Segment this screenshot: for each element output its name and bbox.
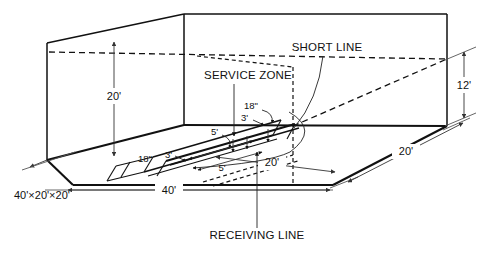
floor-grid-line-4 (107, 172, 144, 181)
dim-text-front-wall-height: 20' (107, 90, 121, 102)
dim-text-line-width-left: 18" (138, 153, 152, 164)
dim-text-court-length: 40' (162, 184, 176, 196)
court-diagram-figure: 20' 12' 40' 20' (0, 0, 489, 255)
floor-court-lines (107, 120, 299, 186)
callout-text-short-line: SHORT LINE (292, 41, 363, 53)
dim-text-receiving-zone-depth: 5' (218, 162, 225, 173)
hidden-edge-short-line-top (197, 56, 293, 67)
edge-floor-back (184, 125, 447, 126)
ext-line-left-corner (22, 152, 75, 170)
dimension-back-wall-height: 12' (445, 47, 476, 126)
leader-18in-top (262, 110, 272, 123)
callout-text-receiving-line: RECEIVING LINE (210, 229, 305, 241)
edge-floor-right-diagonal (333, 126, 447, 185)
dim-text-line-width-short: 18" (244, 100, 258, 111)
dimension-front-wall-height: 20' (100, 42, 128, 156)
hidden-edge-back-top (49, 52, 447, 59)
dim-text-service-box-width: 3' (241, 112, 248, 123)
hidden-edge-diagonal (293, 59, 447, 126)
dim-text-service-zone-depth: 5' (211, 126, 218, 137)
spec-text-overall-dimensions: 40'×20'×20' (14, 189, 70, 201)
ext-line-12ft-top (445, 47, 476, 60)
leader-short-line (294, 56, 323, 128)
callout-short-line: SHORT LINE (292, 41, 363, 128)
court-diagram-svg: 20' 12' 40' 20' (0, 0, 489, 255)
edge-top-left-slant (47, 14, 184, 43)
dimension-left-corner-leader (22, 152, 75, 170)
dimension-side-depth: 20' (330, 118, 470, 188)
dim-text-back-wall-height: 12' (457, 79, 471, 91)
dim-text-court-width-side: 20' (399, 145, 413, 157)
dim-text-service-box-width-left: 3' (165, 149, 172, 160)
edge-floor-left-close (47, 160, 73, 185)
callout-text-service-zone: SERVICE ZONE (204, 69, 292, 81)
